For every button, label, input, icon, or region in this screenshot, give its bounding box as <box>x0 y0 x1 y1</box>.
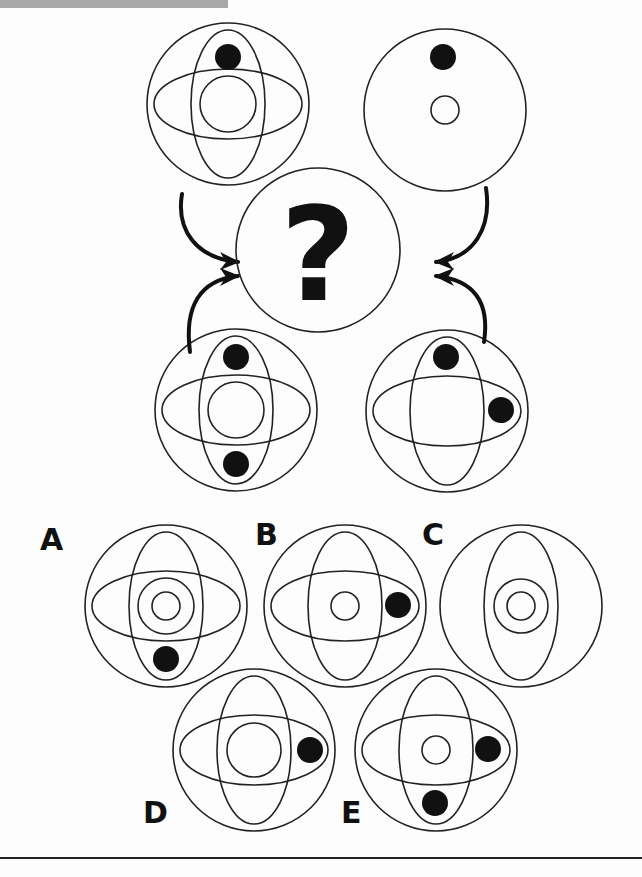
outer-circle <box>440 525 602 687</box>
arrow-bottom-right <box>436 276 485 342</box>
black-dot-icon <box>223 344 249 370</box>
puzzle-canvas: ? <box>0 0 642 877</box>
option-label-c[interactable]: C <box>422 520 444 550</box>
option-figure-e[interactable] <box>355 669 517 831</box>
option-label-b[interactable]: B <box>255 520 278 550</box>
source-figure-top-left <box>147 23 309 185</box>
inner-circle <box>138 578 194 634</box>
black-dot-icon <box>223 451 249 477</box>
inner-circle <box>507 592 535 620</box>
bottom-divider <box>0 857 642 859</box>
source-figure-top-right <box>364 29 526 191</box>
inner-circle <box>331 592 359 620</box>
inner-circle <box>227 723 281 777</box>
black-dot-icon <box>297 737 323 763</box>
target-figure: ? <box>236 168 400 332</box>
black-dot-icon <box>488 397 514 423</box>
question-mark-icon: ? <box>280 179 355 331</box>
answer-options[interactable] <box>85 525 602 831</box>
black-dot-icon <box>215 44 241 70</box>
vertical-ellipse <box>217 676 291 824</box>
option-figure-d[interactable] <box>173 669 335 831</box>
black-dot-icon <box>153 646 179 672</box>
arrow-top-left <box>181 194 238 262</box>
horizontal-ellipse <box>92 571 240 641</box>
option-label-a[interactable]: A <box>40 525 63 555</box>
inner-circle <box>152 592 180 620</box>
inner-circle <box>431 96 459 124</box>
option-figure-c[interactable] <box>440 525 602 687</box>
option-figure-a[interactable] <box>85 525 247 687</box>
arrow-bottom-left <box>189 276 238 352</box>
black-dot-icon <box>385 592 411 618</box>
black-dot-icon <box>475 736 501 762</box>
vertical-ellipse <box>308 532 382 680</box>
inner-circle <box>494 579 548 633</box>
inner-circle <box>208 382 264 438</box>
horizontal-ellipse <box>162 375 310 445</box>
black-dot-icon <box>433 344 459 370</box>
vertical-ellipse <box>484 532 558 680</box>
option-label-e[interactable]: E <box>341 798 362 828</box>
black-dot-icon <box>422 790 448 816</box>
horizontal-ellipse <box>154 69 302 139</box>
option-figure-b[interactable] <box>264 525 426 687</box>
option-label-d[interactable]: D <box>143 798 168 828</box>
arrow-top-right <box>436 188 487 262</box>
source-figure-bottom-left <box>155 329 317 491</box>
arrowhead-icon <box>434 252 454 270</box>
black-dot-icon <box>430 44 456 70</box>
inner-circle <box>422 736 450 764</box>
source-figure-bottom-right <box>366 330 528 492</box>
inner-circle <box>200 76 256 132</box>
